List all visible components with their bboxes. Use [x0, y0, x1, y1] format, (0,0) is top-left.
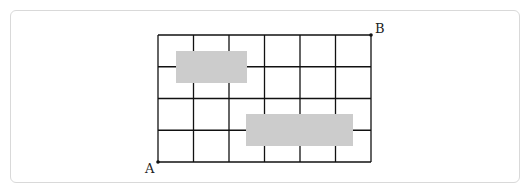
grid-diagram: A B: [0, 0, 529, 191]
point-a-label: A: [144, 161, 155, 176]
shaded-rect-2: [246, 114, 353, 146]
point-b-label: B: [375, 21, 385, 36]
point-a-dot: [156, 160, 160, 164]
shaded-rect-1: [176, 51, 247, 83]
point-b-dot: [369, 33, 373, 37]
